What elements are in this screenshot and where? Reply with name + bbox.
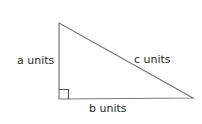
- right-triangle-diagram: a units c units b units: [0, 0, 202, 124]
- side-c-label: c units: [134, 53, 171, 66]
- right-angle-marker: [59, 90, 69, 100]
- side-b-label: b units: [89, 102, 127, 115]
- side-a-label: a units: [17, 54, 55, 67]
- triangle-shape: [59, 23, 193, 99]
